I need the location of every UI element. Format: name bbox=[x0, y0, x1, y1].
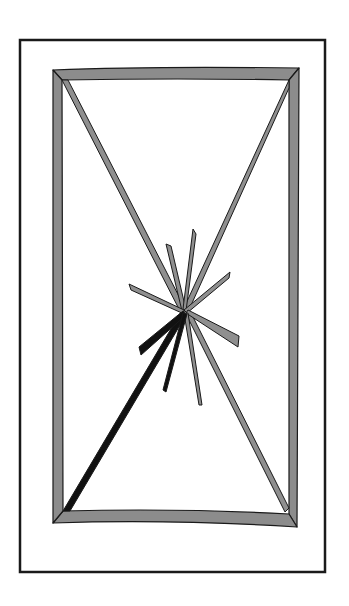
shattered-window-illustration bbox=[0, 0, 349, 606]
